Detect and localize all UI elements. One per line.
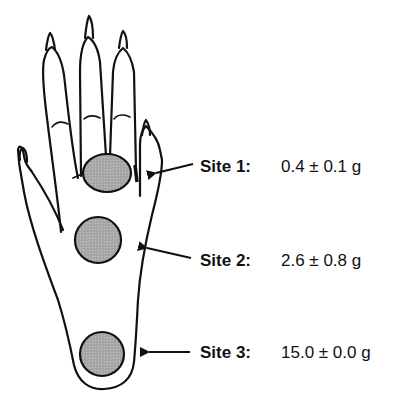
arrows: [147, 164, 193, 352]
site-1-value: 0.4 ± 0.1 g: [281, 157, 361, 177]
site-2-value: 2.6 ± 0.8 g: [281, 251, 361, 271]
ring-crease: [114, 115, 130, 119]
site-1-edge-mark: [135, 165, 137, 182]
middle-crease: [84, 116, 100, 119]
site-2-marker: [75, 217, 121, 263]
index-crease: [52, 122, 68, 127]
hand-outline: [18, 16, 162, 389]
index-finger: [43, 47, 78, 232]
site-1-name: Site 1:: [200, 157, 251, 177]
site-2-arrow: [147, 248, 191, 258]
middle-claw: [85, 16, 93, 38]
site-3-name: Site 3:: [200, 343, 251, 363]
ring-claw: [119, 31, 127, 48]
site-3-marker: [80, 332, 124, 376]
site-2-name: Site 2:: [200, 251, 251, 271]
ring-finger: [110, 48, 136, 170]
site-1-marker: [83, 154, 131, 192]
site-3-value: 15.0 ± 0.0 g: [281, 343, 371, 363]
